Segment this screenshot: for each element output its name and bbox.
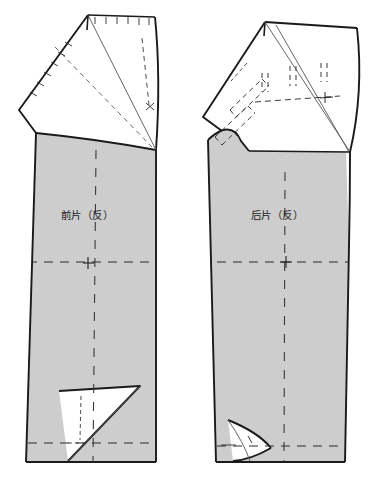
front-pattern-piece bbox=[19, 15, 159, 462]
back-corner-stub bbox=[264, 22, 265, 36]
back-piece-label: 后片（反） bbox=[251, 209, 304, 221]
pattern-drawing: 前片（反） 后片（反） bbox=[0, 0, 392, 496]
pattern-canvas: 前片（反） 后片（反） bbox=[0, 0, 392, 496]
back-fold-flap-top bbox=[222, 22, 362, 152]
back-fabric-body bbox=[208, 130, 349, 462]
front-corner-stub bbox=[87, 15, 88, 30]
front-piece-label: 前片（反） bbox=[61, 209, 114, 221]
back-pattern-piece bbox=[203, 22, 362, 462]
back-hip-line bbox=[249, 151, 350, 152]
